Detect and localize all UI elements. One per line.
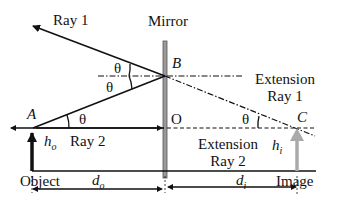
ray-1-incident: [33, 76, 165, 128]
image-label: Image: [276, 174, 313, 189]
theta-a-label: θ: [79, 112, 86, 127]
extension-ray-2-label-line1: Extension: [193, 137, 263, 152]
extension-ray-1-label-line2: Ray 1: [250, 89, 320, 104]
ray-2-label: Ray 2: [70, 134, 105, 149]
object-label: Object: [20, 174, 60, 189]
point-a-label: A: [27, 107, 36, 122]
angle-arc-c: [258, 116, 259, 128]
extension-ray-1-label-line1: Extension: [250, 72, 320, 87]
point-o-label: O: [171, 112, 182, 127]
theta-c-label: θ: [242, 112, 249, 127]
extension-ray-2-label-line2: Ray 2: [193, 154, 263, 169]
theta-top-label: θ: [114, 61, 121, 76]
ray-1-reflected: [33, 26, 165, 76]
angle-arc-top: [129, 64, 130, 76]
mirror: [163, 41, 167, 178]
di-label: di: [236, 173, 246, 191]
ray-1-label: Ray 1: [53, 13, 88, 28]
angle-arc-a: [67, 115, 69, 128]
do-label: do: [92, 173, 105, 191]
mirror-label: Mirror: [148, 14, 188, 29]
hi-label: hi: [272, 138, 282, 156]
ho-label: ho: [44, 134, 57, 152]
theta-bottom-label: θ: [106, 80, 113, 95]
angle-arc-bottom: [129, 76, 132, 89]
image-arrow-head: [290, 128, 304, 141]
point-c-label: C: [297, 110, 307, 125]
point-b-label: B: [172, 56, 181, 71]
